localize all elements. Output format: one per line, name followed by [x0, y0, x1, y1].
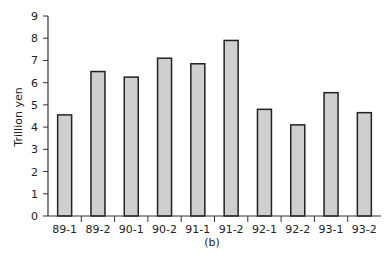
bar-91-1: [191, 64, 205, 216]
bar-92-1: [257, 109, 271, 216]
y-tick-label: 7: [31, 54, 38, 67]
y-tick-label: 0: [31, 210, 38, 223]
x-tick-label: 89-1: [52, 223, 77, 236]
x-tick-label: 92-2: [285, 223, 310, 236]
bar-92-2: [291, 125, 305, 216]
y-tick-label: 3: [31, 143, 38, 156]
y-tick-label: 6: [31, 77, 38, 90]
x-tick-label: 93-2: [352, 223, 377, 236]
x-tick-label: 90-1: [119, 223, 144, 236]
y-axis: 0123456789: [31, 10, 48, 223]
y-tick-label: 1: [31, 188, 38, 201]
bar-89-1: [58, 115, 72, 216]
x-tick-label: 93-1: [319, 223, 344, 236]
bar-chart: 0123456789 89-189-290-190-291-191-292-19…: [0, 0, 389, 259]
x-tick-label: 90-2: [152, 223, 177, 236]
y-tick-label: 9: [31, 10, 38, 23]
x-tick-label: 89-2: [85, 223, 110, 236]
bar-93-2: [357, 113, 371, 216]
chart-caption: (b): [204, 236, 220, 249]
x-axis: 89-189-290-190-291-191-292-192-293-193-2: [48, 216, 381, 236]
y-tick-label: 4: [31, 121, 38, 134]
bar-90-2: [158, 58, 172, 216]
bar-90-1: [124, 77, 138, 216]
x-tick-label: 92-1: [252, 223, 277, 236]
bar-93-1: [324, 93, 338, 216]
bar-89-2: [91, 72, 105, 216]
bars: [58, 40, 372, 216]
bar-91-2: [224, 40, 238, 216]
y-tick-label: 2: [31, 166, 38, 179]
y-axis-title: Trillion yen: [12, 87, 25, 147]
x-tick-label: 91-1: [185, 223, 210, 236]
y-tick-label: 8: [31, 32, 38, 45]
y-tick-label: 5: [31, 99, 38, 112]
x-tick-label: 91-2: [219, 223, 244, 236]
